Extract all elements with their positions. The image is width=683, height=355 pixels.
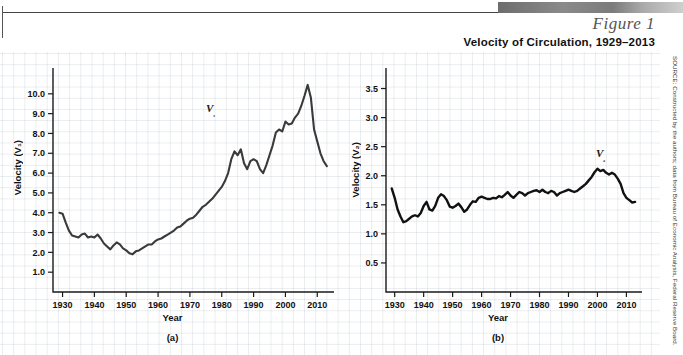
- x-tick-label: 1990: [558, 300, 578, 310]
- chart-a-ylabel: Velocity (V₁): [12, 140, 23, 195]
- y-tick-label: 3.0: [32, 228, 45, 238]
- y-tick-label: 2.5: [365, 142, 378, 152]
- y-tick-label: 1.5: [365, 200, 378, 210]
- figure-title: Velocity of Circulation, 1929–2013: [463, 36, 655, 48]
- y-tick-label: 0.5: [365, 258, 378, 268]
- x-tick-label: 2000: [275, 300, 295, 310]
- x-tick-label: 1960: [472, 300, 492, 310]
- y-tick-label: 10.0: [27, 89, 45, 99]
- x-tick-label: 1950: [116, 300, 136, 310]
- header-swatch: [498, 2, 683, 13]
- header-rule: [2, 12, 499, 13]
- y-tick-label: 1.0: [365, 229, 378, 239]
- y-tick-label: 3.5: [365, 84, 378, 94]
- y-tick-label: 8.0: [32, 129, 45, 139]
- x-tick-label: 2010: [616, 300, 636, 310]
- x-tick-label: 1970: [180, 300, 200, 310]
- x-tick-label: 1990: [244, 300, 264, 310]
- chart-panel-a: 1.02.03.04.05.06.07.08.09.010.0193019401…: [0, 60, 345, 310]
- x-tick-label: 1980: [212, 300, 232, 310]
- chart-a-caption: (a): [0, 332, 345, 343]
- x-tick-label: 1940: [84, 300, 104, 310]
- x-tick-label: 1950: [443, 300, 463, 310]
- y-tick-label: 5.0: [32, 188, 45, 198]
- y-tick-label: 7.0: [32, 148, 45, 158]
- header-tick: [2, 6, 3, 38]
- chart-a-svg: 1.02.03.04.05.06.07.08.09.010.0193019401…: [0, 60, 345, 310]
- series-annotation-subscript: ₂: [603, 154, 606, 163]
- x-tick-label: 1970: [501, 300, 521, 310]
- x-tick-label: 2010: [307, 300, 327, 310]
- y-tick-label: 2.0: [32, 248, 45, 258]
- x-tick-label: 1940: [414, 300, 434, 310]
- data-series-line: [392, 169, 635, 222]
- series-annotation-subscript: ₁: [213, 109, 215, 118]
- source-note: SOURCE: Constructed by the authors; data…: [668, 56, 682, 346]
- chart-b-caption: (b): [338, 332, 658, 343]
- chart-a-xlabel: Year: [0, 312, 345, 323]
- chart-b-xlabel: Year: [338, 312, 658, 323]
- y-tick-label: 2.0: [365, 171, 378, 181]
- y-tick-label: 3.0: [365, 113, 378, 123]
- chart-b-ylabel: Velocity (V₂): [350, 142, 361, 197]
- x-tick-label: 1930: [385, 300, 405, 310]
- chart-b-svg: 0.51.01.52.02.53.03.51930194019501960197…: [338, 60, 658, 310]
- y-tick-label: 4.0: [32, 208, 45, 218]
- y-tick-label: 1.0: [32, 267, 45, 277]
- data-series-line: [59, 85, 326, 254]
- y-tick-label: 9.0: [32, 109, 45, 119]
- x-tick-label: 1930: [53, 300, 73, 310]
- x-tick-label: 1960: [148, 300, 168, 310]
- y-tick-label: 6.0: [32, 168, 45, 178]
- x-tick-label: 2000: [587, 300, 607, 310]
- figure-number: Figure 1: [593, 14, 655, 34]
- x-tick-label: 1980: [530, 300, 550, 310]
- chart-panel-b: 0.51.01.52.02.53.03.51930194019501960197…: [338, 60, 658, 310]
